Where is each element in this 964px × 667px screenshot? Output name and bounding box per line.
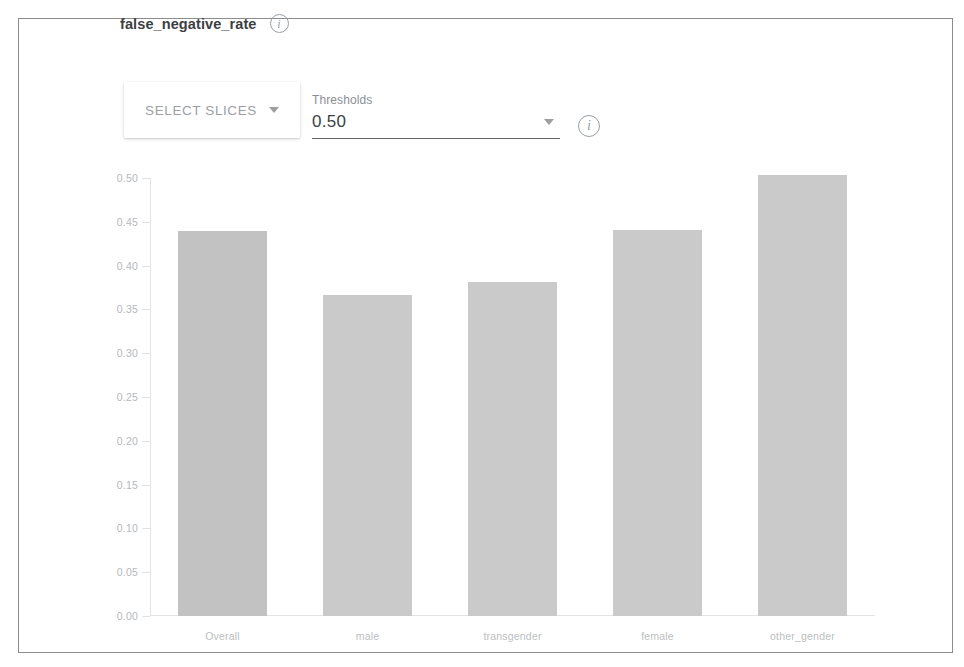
y-axis-tick-label: 0.30 bbox=[117, 347, 138, 359]
y-axis-tick bbox=[142, 528, 150, 529]
y-axis-line bbox=[150, 178, 151, 616]
y-axis-tick-label: 0.35 bbox=[117, 303, 138, 315]
page-title: false_negative_rate bbox=[120, 16, 257, 32]
bar-male[interactable] bbox=[323, 295, 413, 616]
y-axis-tick-label: 0.00 bbox=[117, 610, 138, 622]
chevron-down-icon bbox=[544, 119, 554, 125]
y-axis-tick bbox=[142, 572, 150, 573]
y-axis-tick-label: 0.15 bbox=[117, 479, 138, 491]
x-axis-category-label: Overall bbox=[205, 630, 240, 642]
y-axis-tick-label: 0.45 bbox=[117, 216, 138, 228]
y-axis-tick bbox=[142, 222, 150, 223]
bar-Overall[interactable] bbox=[178, 231, 268, 616]
bar-chart: 0.500.450.400.350.300.250.200.150.100.05… bbox=[100, 170, 890, 640]
y-axis-tick-label: 0.50 bbox=[117, 172, 138, 184]
y-axis-tick-label: 0.10 bbox=[117, 522, 138, 534]
y-axis-tick bbox=[142, 353, 150, 354]
screenshot-root: false_negative_rate i SELECT SLICES Thre… bbox=[0, 0, 964, 667]
y-axis-tick bbox=[142, 397, 150, 398]
panel-header: false_negative_rate i bbox=[120, 14, 289, 33]
thresholds-info-icon[interactable]: i bbox=[578, 115, 600, 137]
x-axis-category-label: female bbox=[641, 630, 674, 642]
bar-female[interactable] bbox=[613, 230, 703, 616]
y-axis-tick-label: 0.05 bbox=[117, 566, 138, 578]
controls-row: SELECT SLICES Thresholds 0.50 i bbox=[124, 82, 600, 141]
plot-area: 0.500.450.400.350.300.250.200.150.100.05… bbox=[150, 178, 875, 616]
y-axis-tick-label: 0.20 bbox=[117, 435, 138, 447]
info-icon[interactable]: i bbox=[270, 14, 289, 33]
y-axis-tick-label: 0.25 bbox=[117, 391, 138, 403]
thresholds-select[interactable]: 0.50 bbox=[312, 112, 560, 139]
y-axis-tick bbox=[142, 178, 150, 179]
chevron-down-icon bbox=[269, 107, 279, 113]
select-slices-label: SELECT SLICES bbox=[145, 103, 257, 118]
x-axis-category-label: other_gender bbox=[770, 630, 835, 642]
y-axis-tick bbox=[142, 616, 150, 617]
y-axis-tick bbox=[142, 266, 150, 267]
y-axis-tick-label: 0.40 bbox=[117, 260, 138, 272]
y-axis-tick bbox=[142, 485, 150, 486]
select-slices-button[interactable]: SELECT SLICES bbox=[124, 82, 300, 138]
y-axis-tick bbox=[142, 441, 150, 442]
x-axis-category-label: transgender bbox=[483, 630, 541, 642]
bar-transgender[interactable] bbox=[468, 282, 558, 616]
y-axis-tick bbox=[142, 309, 150, 310]
thresholds-value: 0.50 bbox=[312, 112, 346, 132]
bar-other_gender[interactable] bbox=[758, 175, 848, 617]
thresholds-label: Thresholds bbox=[312, 93, 560, 107]
x-axis-category-label: male bbox=[356, 630, 380, 642]
thresholds-field: Thresholds 0.50 bbox=[312, 93, 560, 141]
